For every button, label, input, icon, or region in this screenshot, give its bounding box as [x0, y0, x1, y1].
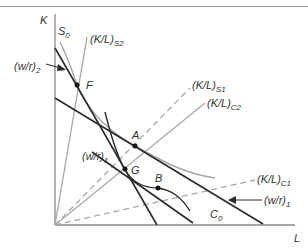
wr1-right-label: (w/r)1: [264, 194, 290, 209]
point-a-label: A: [131, 129, 139, 141]
kl-c1-ray: [55, 180, 255, 225]
wr1-left-label: (w/r)1: [82, 150, 108, 165]
kl-s1-label: (K/L)S1: [192, 79, 226, 94]
kl-s2-ray: [55, 37, 87, 225]
kl-c2-ray: [55, 103, 205, 225]
point-b-label: B: [155, 172, 162, 184]
wr2-label: (w/r)2: [14, 60, 41, 75]
kl-c1-label: (K/L)C1: [257, 173, 291, 188]
kl-s2-label: (K/L)S2: [90, 33, 124, 48]
point-a: [133, 144, 138, 149]
isoquant-c0: [105, 112, 190, 211]
point-b: [156, 186, 161, 191]
k-axis-label: K: [40, 14, 48, 26]
point-f: [75, 83, 80, 88]
isoquant-diagram: K L S0 (K/L)S2 (K/L)S1 (K/L)C2 (K/L)C1 (…: [0, 0, 308, 250]
point-f-label: F: [86, 79, 94, 91]
point-g: [123, 167, 128, 172]
l-axis-label: L: [294, 232, 300, 244]
point-g-label: G: [131, 164, 140, 176]
kl-c2-label: (K/L)C2: [207, 97, 242, 112]
c0-label: C0: [210, 208, 223, 223]
s0-label: S0: [58, 25, 70, 40]
